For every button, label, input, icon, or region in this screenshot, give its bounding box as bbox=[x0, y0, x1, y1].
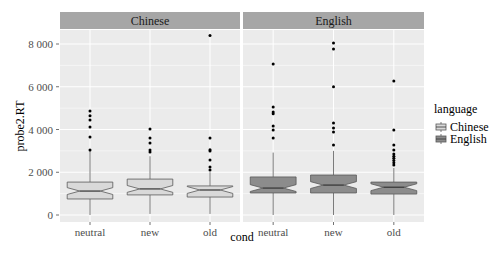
outlier-point bbox=[89, 119, 92, 122]
y-axis: 02 0004 0006 0008 000 bbox=[28, 38, 59, 221]
outlier-point bbox=[209, 159, 212, 162]
outlier-point bbox=[392, 144, 395, 147]
x-tick-label: old bbox=[203, 226, 218, 238]
y-tick-label: 0 bbox=[48, 209, 54, 221]
legend-label: English bbox=[450, 132, 487, 146]
outlier-point bbox=[332, 122, 335, 125]
x-tick-label: neutral bbox=[75, 226, 106, 238]
y-axis-title: probe2.RT bbox=[13, 100, 27, 152]
outlier-point bbox=[89, 149, 92, 152]
outlier-point bbox=[392, 79, 395, 82]
outlier-point bbox=[332, 131, 335, 134]
facet-strip-label: Chinese bbox=[131, 14, 170, 28]
outlier-point bbox=[209, 148, 212, 151]
outlier-point bbox=[272, 128, 275, 131]
x-axis-title: cond bbox=[230, 230, 253, 244]
facet-panels: ChineseneutralnewoldEnglishneutralnewold bbox=[60, 12, 424, 238]
outlier-point bbox=[89, 125, 92, 128]
legend-title: language bbox=[434, 102, 477, 116]
outlier-point bbox=[272, 110, 275, 113]
facet-panel-chinese: Chineseneutralnewold bbox=[60, 12, 240, 238]
outlier-point bbox=[149, 141, 152, 144]
x-tick-label: new bbox=[141, 226, 159, 238]
outlier-point bbox=[272, 63, 275, 66]
x-tick-label: old bbox=[387, 226, 402, 238]
outlier-point bbox=[392, 153, 395, 156]
outlier-point bbox=[149, 149, 152, 152]
outlier-point bbox=[149, 137, 152, 140]
outlier-point bbox=[89, 109, 92, 112]
outlier-point bbox=[272, 125, 275, 128]
outlier-point bbox=[149, 128, 152, 131]
outlier-point bbox=[332, 144, 335, 147]
facet-strip-label: English bbox=[315, 14, 352, 28]
legend: language ChineseEnglish bbox=[434, 102, 489, 146]
outlier-point bbox=[392, 149, 395, 152]
outlier-point bbox=[392, 128, 395, 131]
x-tick-label: new bbox=[324, 226, 342, 238]
outlier-point bbox=[332, 41, 335, 44]
facet-panel-english: Englishneutralnewold bbox=[243, 12, 424, 238]
outlier-point bbox=[209, 165, 212, 168]
y-tick-label: 6 000 bbox=[28, 81, 53, 93]
outlier-point bbox=[89, 135, 92, 138]
outlier-point bbox=[272, 106, 275, 109]
y-tick-label: 4 000 bbox=[28, 124, 53, 136]
outlier-point bbox=[209, 169, 212, 172]
outlier-point bbox=[332, 127, 335, 130]
outlier-point bbox=[332, 85, 335, 88]
y-tick-label: 2 000 bbox=[28, 166, 53, 178]
outlier-point bbox=[332, 47, 335, 50]
y-tick-label: 8 000 bbox=[28, 38, 53, 50]
x-tick-label: neutral bbox=[258, 226, 289, 238]
outlier-point bbox=[89, 114, 92, 117]
boxplot-chart: ChineseneutralnewoldEnglishneutralnewold… bbox=[0, 0, 496, 259]
outlier-point bbox=[272, 137, 275, 140]
outlier-point bbox=[209, 34, 212, 37]
legend-entry-english: English bbox=[436, 132, 487, 146]
outlier-point bbox=[209, 137, 212, 140]
